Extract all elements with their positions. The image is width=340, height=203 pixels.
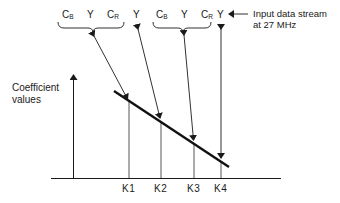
stream-sample-y-4: Y bbox=[217, 9, 224, 20]
brace-first-triplet bbox=[58, 22, 124, 33]
stream-sample-y-2: Y bbox=[133, 9, 140, 20]
coefficient-slope-line bbox=[114, 91, 229, 167]
input-stream-label-line2: at 27 MHz bbox=[253, 19, 296, 30]
stream-sample-cr-1: CR bbox=[107, 9, 119, 22]
coefficient-label-line2: values bbox=[12, 94, 41, 106]
stream-sample-cb-1: CB bbox=[62, 9, 74, 22]
tap-label-k4: K4 bbox=[214, 183, 227, 194]
stream-sample-y-1: Y bbox=[87, 9, 94, 20]
filter-diagram bbox=[0, 0, 340, 203]
coefficient-label-line1: Coefficient bbox=[12, 82, 59, 94]
stream-sample-cb-2: CB bbox=[156, 9, 168, 22]
input-stream-label-line1: Input data stream bbox=[253, 8, 327, 19]
tap-label-k3: K3 bbox=[187, 183, 200, 194]
stream-sample-cr-2: CR bbox=[201, 9, 213, 22]
arrow-y-to-k2 bbox=[138, 29, 160, 118]
arrow-triplet2-to-k3 bbox=[184, 35, 194, 140]
brace-second-triplet bbox=[153, 22, 211, 33]
tap-label-k2: K2 bbox=[154, 183, 167, 194]
stream-sample-y-3: Y bbox=[181, 9, 188, 20]
arrow-triplet1-to-k1 bbox=[94, 36, 128, 99]
tap-label-k1: K1 bbox=[122, 183, 135, 194]
